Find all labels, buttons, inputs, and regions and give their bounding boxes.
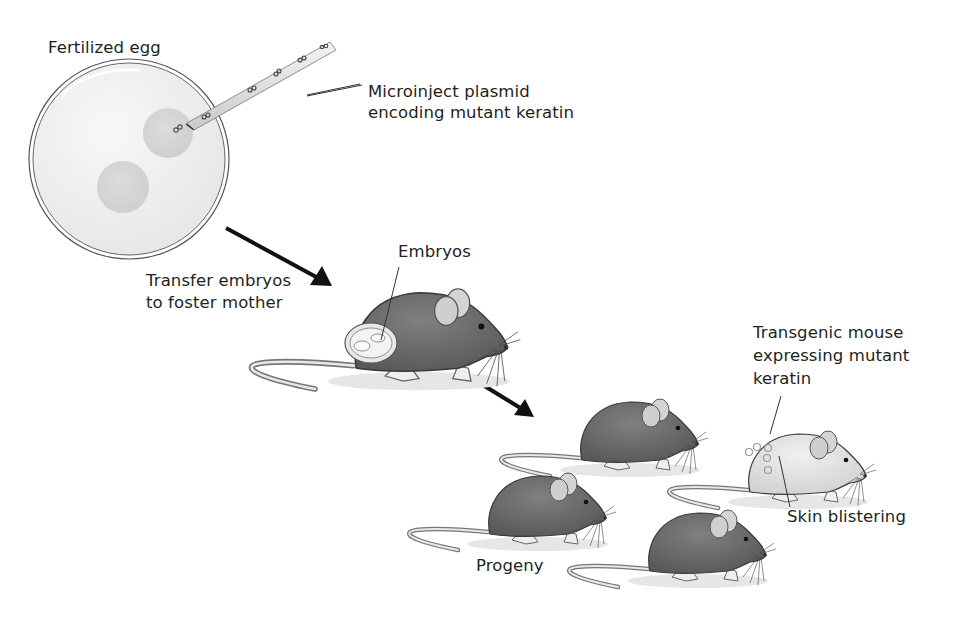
- leader-line: [307, 84, 360, 95]
- label-transfer-line2: to foster mother: [146, 293, 283, 313]
- transgenic-leader-line: [770, 396, 781, 434]
- label-fertilized-egg: Fertilized egg: [48, 38, 161, 58]
- transgenic-mouse: [669, 431, 876, 509]
- label-microinject-line1: Microinject plasmid: [368, 82, 530, 102]
- label-progeny: Progeny: [476, 556, 544, 576]
- label-embryos: Embryos: [398, 242, 471, 262]
- embryo-window: [345, 323, 397, 363]
- label-transfer-line1: Transfer embryos: [146, 271, 291, 291]
- label-transgenic-line3: keratin: [753, 369, 811, 389]
- label-transgenic-line2: expressing mutant: [753, 346, 909, 366]
- pronucleus-2: [97, 161, 149, 213]
- label-microinject-line2: encoding mutant keratin: [368, 103, 574, 123]
- progeny-mouse-1: [501, 399, 708, 477]
- micropipette: [186, 42, 360, 130]
- pronucleus-1: [143, 108, 193, 158]
- progeny-mouse-2: [409, 473, 616, 551]
- label-transgenic-line1: Transgenic mouse: [753, 323, 904, 343]
- label-skin-blistering: Skin blistering: [787, 507, 906, 527]
- fertilized-egg: [29, 59, 229, 259]
